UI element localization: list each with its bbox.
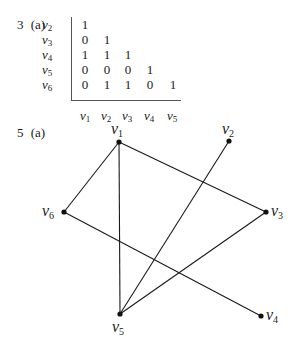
node-label-v3: v3 <box>271 202 283 221</box>
graph-edges <box>64 141 266 316</box>
edge-v6-v4 <box>64 212 261 316</box>
node-v2 <box>226 138 231 143</box>
graph-nodes <box>61 138 268 318</box>
edge-v1-v6 <box>64 142 119 212</box>
node-v6 <box>61 209 66 214</box>
edge-v2-v5 <box>120 141 229 314</box>
node-v4 <box>258 313 263 318</box>
graph-5a <box>0 0 298 344</box>
edge-v1-v5 <box>119 142 120 314</box>
node-label-v4: v4 <box>266 306 278 325</box>
node-label-v5: v5 <box>112 318 124 337</box>
node-label-v6: v6 <box>42 202 54 221</box>
edge-v1-v3 <box>119 142 266 212</box>
edge-v3-v5 <box>120 212 266 314</box>
node-v1 <box>116 139 121 144</box>
node-v5 <box>117 311 122 316</box>
node-label-v2: v2 <box>222 120 234 139</box>
node-label-v1: v1 <box>111 120 123 139</box>
node-v3 <box>263 209 268 214</box>
